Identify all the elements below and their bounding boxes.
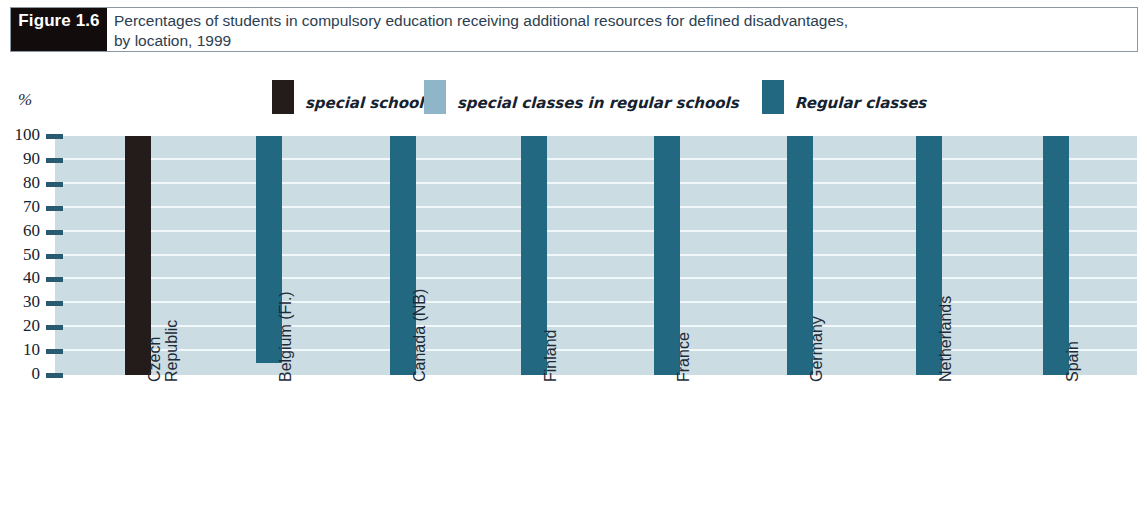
chart-plot-area (55, 136, 1137, 375)
y-axis-tick-mark (46, 134, 63, 139)
x-axis-label-line: Finland (542, 330, 559, 382)
x-axis-label-line: Czech (146, 320, 163, 382)
y-axis-tick-label: 20 (0, 316, 40, 336)
y-axis-tick-mark (46, 325, 63, 330)
y-axis-tick-mark (46, 301, 63, 306)
gridline (55, 325, 1137, 327)
gridline (55, 277, 1137, 279)
x-axis-label-netherlands: Netherlands (937, 296, 954, 382)
y-axis-tick-label: 60 (0, 221, 40, 241)
y-axis-tick-label: 70 (0, 197, 40, 217)
y-axis-tick-label: 100 (0, 125, 40, 145)
x-axis-label-line: Spain (1064, 341, 1081, 382)
gridline (55, 254, 1137, 256)
y-axis-tick-label: 40 (0, 268, 40, 288)
y-axis-tick-label: 80 (0, 173, 40, 193)
y-axis-tick-mark (46, 182, 63, 187)
x-axis-label-line: Belgium (Fl.) (277, 291, 294, 382)
y-axis-tick-label: 10 (0, 340, 40, 360)
y-axis-tick-label: 50 (0, 245, 40, 265)
chart-plot-wrapper: 1009080706050403020100 CzechRepublicBelg… (0, 0, 1147, 527)
x-axis-label-france: France (675, 332, 692, 382)
y-axis-tick-mark (46, 349, 63, 354)
x-axis-label-czech-republic: CzechRepublic (146, 320, 180, 382)
y-axis-tick-label: 30 (0, 292, 40, 312)
x-axis-label-line: Republic (163, 320, 180, 382)
y-axis-tick-mark (46, 254, 63, 259)
y-axis-tick-mark (46, 158, 63, 163)
y-axis-tick-mark (46, 206, 63, 211)
x-axis-label-spain: Spain (1064, 341, 1081, 382)
y-axis-tick-label: 90 (0, 149, 40, 169)
y-axis-tick-mark (46, 373, 63, 378)
x-axis-label-finland: Finland (542, 330, 559, 382)
x-axis-label-belgium-fl: Belgium (Fl.) (277, 291, 294, 382)
x-axis-label-line: France (675, 332, 692, 382)
gridline (55, 230, 1137, 232)
gridline (55, 206, 1137, 208)
x-axis-label-line: Germany (808, 316, 825, 382)
gridline (55, 182, 1137, 184)
x-axis-label-canada-nb: Canada (NB) (411, 289, 428, 382)
y-axis-tick-label: 0 (0, 364, 40, 384)
gridline (55, 349, 1137, 351)
y-axis-tick-mark (46, 277, 63, 282)
x-axis-label-germany: Germany (808, 316, 825, 382)
gridline (55, 158, 1137, 160)
x-axis-label-line: Canada (NB) (411, 289, 428, 382)
bar-spain (1043, 136, 1069, 375)
gridline (55, 301, 1137, 303)
y-axis-tick-mark (46, 230, 63, 235)
x-axis-label-line: Netherlands (937, 296, 954, 382)
